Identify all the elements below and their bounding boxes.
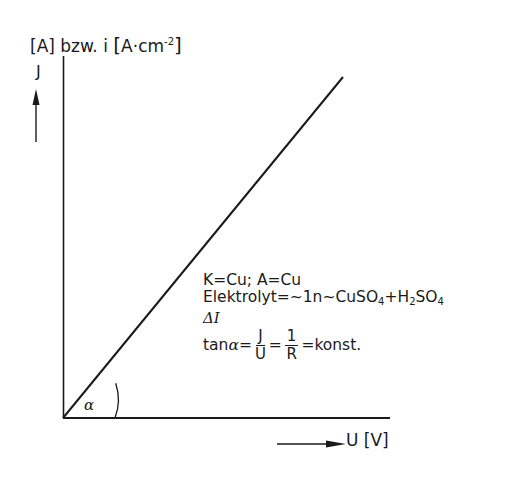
electrolyte-mid: +H [384,288,409,306]
y-direction-arrow-icon [33,89,40,142]
x-axis-label: U [V] [346,432,389,449]
electrolyte-text: Elektrolyt=~1n~CuSO4+H2SO4 [203,289,444,310]
y-axis-label: [A] bzw. i [A·cm-2] [30,35,182,55]
delta-label: ΔI [203,310,444,327]
formula-alpha: α [228,337,238,354]
x-direction-arrow-icon [277,441,346,448]
y-axis-unit-exponent: -2 [164,36,174,47]
formula-equals: = [239,337,252,354]
bracket-close: ] [174,33,182,57]
formula-equals: = [269,337,282,354]
fraction-one-over-r: 1R [285,329,299,362]
fraction-numerator: 1 [285,329,299,346]
ohm-law-diagram [0,0,505,478]
characteristic-line [63,77,343,418]
y-axis-label-prefix: [A] bzw. i [30,36,113,56]
formula-tan: tan [203,337,228,354]
electrolyte-sub: 4 [438,296,444,307]
fraction-numerator: J [256,329,264,346]
formula-konst: =konst. [301,337,361,354]
angle-label: α [84,398,94,413]
fraction-j-over-u: JU [255,329,266,362]
info-block: K=Cu; A=Cu Elektrolyt=~1n~CuSO4+H2SO4 ΔI… [203,272,444,362]
angle-arc [115,383,118,418]
bracket-open: [ [113,33,121,57]
electrolyte-prefix: Elektrolyt=~1n~CuSO [203,288,378,306]
y-axis-symbol: J [36,64,41,80]
y-axis-unit: A·cm [121,36,164,56]
electrolyte-mid: SO [416,288,438,306]
fraction-denominator: R [286,346,296,362]
fraction-denominator: U [255,346,266,362]
formula: tanα= JU = 1R =konst. [203,329,444,362]
electrodes-text: K=Cu; A=Cu [203,272,444,289]
